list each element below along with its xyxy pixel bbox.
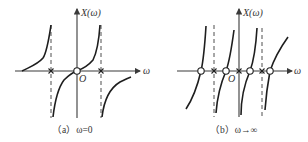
reactance-diagram: X(ω) ω O （a）ω=0 X(ω) ω O （b）ω→∞ bbox=[0, 0, 308, 142]
curve-a-left-branch bbox=[22, 25, 51, 71]
caption-b: （b）ω→∞ bbox=[210, 124, 258, 135]
x-axis-label-a: ω bbox=[143, 65, 150, 76]
y-axis-label-a: X(ω) bbox=[80, 7, 101, 19]
y-axis-label-b: X(ω) bbox=[242, 7, 263, 19]
curve-a-right-branch bbox=[102, 77, 131, 117]
zero-marker bbox=[247, 68, 253, 74]
origin-label-b: O bbox=[228, 73, 235, 84]
panel-a: X(ω) ω O （a）ω=0 bbox=[15, 7, 150, 135]
curve-b-branch-1 bbox=[186, 26, 206, 109]
origin-label-a: O bbox=[79, 73, 86, 84]
zero-marker bbox=[267, 68, 273, 74]
caption-a: （a）ω=0 bbox=[52, 124, 93, 135]
zero-marker bbox=[198, 68, 204, 74]
x-axis-label-b: ω bbox=[294, 65, 301, 76]
panel-b: X(ω) ω O （b）ω→∞ bbox=[177, 7, 301, 135]
